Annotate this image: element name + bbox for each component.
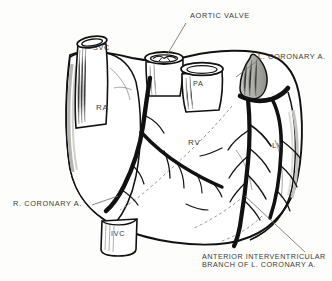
label-right-coronary-artery: R. CORONARY A. <box>13 200 82 208</box>
label-ra: RA <box>96 104 109 112</box>
label-lv: LV <box>272 142 283 150</box>
label-left-coronary-artery: L. CORONARY A. <box>258 53 326 61</box>
label-aortic-valve: AORTIC VALVE <box>190 12 250 20</box>
label-svc: SVC <box>93 44 110 52</box>
label-ivc: IVC <box>111 230 125 238</box>
leader-aortic-valve <box>167 23 186 55</box>
aorta-vessel <box>145 52 183 96</box>
label-anterior-interventricular-branch: ANTERIOR INTERVENTRICULAR BRANCH OF L. C… <box>202 253 326 268</box>
label-pa: PA <box>193 80 203 88</box>
label-rv: RV <box>188 139 201 147</box>
label-anterior-iv-line-2: BRANCH OF L. CORONARY A. <box>202 261 326 269</box>
heart-anatomy-figure: AORTIC VALVE L. CORONARY A. R. CORONARY … <box>0 0 332 281</box>
